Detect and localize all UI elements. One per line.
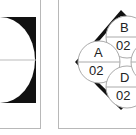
circle-b-value: 02 <box>116 38 130 53</box>
left-square-figure <box>0 17 36 103</box>
circle-a-value: 02 <box>89 63 103 78</box>
circle-d-label: D <box>120 70 129 85</box>
diagram-canvas: B 02 A 02 D 02 <box>0 0 136 135</box>
circle-a-label: A <box>94 45 103 60</box>
circle-d-value: 02 <box>116 88 130 103</box>
circle-b-label: B <box>120 20 129 35</box>
